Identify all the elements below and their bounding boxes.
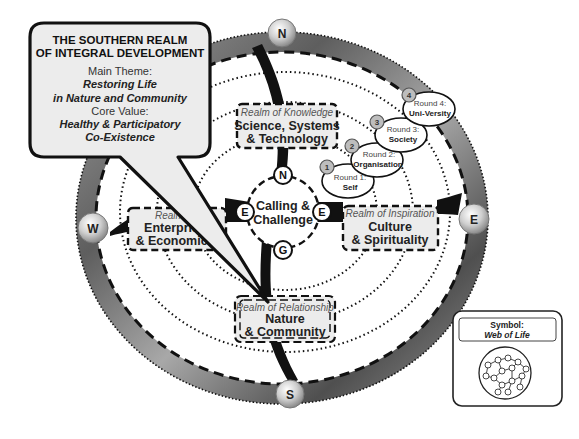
center-node-top: N xyxy=(274,166,292,184)
svg-text:& Technology: & Technology xyxy=(246,132,328,146)
svg-text:N: N xyxy=(279,169,287,181)
svg-text:Core Value:: Core Value: xyxy=(91,105,148,117)
symbol-box: Symbol: Web of Life xyxy=(453,311,562,406)
svg-text:Symbol:: Symbol: xyxy=(490,320,524,330)
svg-text:3: 3 xyxy=(375,118,380,127)
web-of-life-icon xyxy=(479,347,531,399)
svg-text:Round 3:: Round 3: xyxy=(387,125,419,134)
svg-text:& Community: & Community xyxy=(244,325,325,339)
realm-relationship-box: Realm of Relationship Nature & Community xyxy=(235,296,335,342)
svg-text:Healthy & Participatory: Healthy & Participatory xyxy=(59,118,181,130)
svg-text:Round 4:: Round 4: xyxy=(414,99,446,108)
svg-text:Web of Life: Web of Life xyxy=(484,330,530,340)
svg-text:N: N xyxy=(278,27,287,41)
center-line2: Challenge xyxy=(253,213,313,227)
svg-text:OF INTEGRAL DEVELOPMENT: OF INTEGRAL DEVELOPMENT xyxy=(36,47,204,59)
realm-inspiration-box: Realm of Inspiration Culture & Spiritual… xyxy=(343,206,438,250)
svg-text:THE SOUTHERN REALM: THE SOUTHERN REALM xyxy=(53,34,188,46)
svg-text:Main Theme:: Main Theme: xyxy=(88,65,152,77)
center-node-bottom: G xyxy=(274,241,292,259)
svg-text:E: E xyxy=(318,206,325,218)
svg-text:Uni-Versity: Uni-Versity xyxy=(409,109,451,118)
svg-text:Co-Existence: Co-Existence xyxy=(85,131,155,143)
center-calling-challenge: Calling & Challenge xyxy=(247,176,319,248)
svg-text:& Spirituality: & Spirituality xyxy=(351,233,428,247)
callout-bubble: THE SOUTHERN REALM OF INTEGRAL DEVELOPME… xyxy=(30,23,268,302)
center-node-right: E xyxy=(313,203,331,221)
svg-text:Nature: Nature xyxy=(265,312,305,326)
svg-text:in Nature and Community: in Nature and Community xyxy=(53,92,188,104)
svg-text:W: W xyxy=(87,222,99,236)
globe-east: E xyxy=(459,204,489,234)
svg-text:Society: Society xyxy=(389,135,418,144)
svg-text:Restoring Life: Restoring Life xyxy=(83,78,157,90)
svg-text:Science, Systems: Science, Systems xyxy=(234,119,340,133)
realm-knowledge-box: Realm of Knowledge Science, Systems & Te… xyxy=(234,104,340,148)
svg-text:S: S xyxy=(286,388,294,402)
svg-text:G: G xyxy=(279,244,288,256)
svg-text:Organisation: Organisation xyxy=(353,160,402,169)
svg-text:1: 1 xyxy=(325,163,330,172)
svg-text:E: E xyxy=(470,213,478,227)
svg-text:Realm of Inspiration: Realm of Inspiration xyxy=(346,208,435,219)
svg-text:Realm of Knowledge: Realm of Knowledge xyxy=(241,107,334,118)
globe-north: N xyxy=(268,19,296,47)
svg-text:E: E xyxy=(241,206,248,218)
center-line1: Calling & xyxy=(256,199,310,213)
center-node-left: E xyxy=(236,203,254,221)
southern-realm-diagram: Calling & Challenge N E E G Realm of Kno… xyxy=(0,0,579,439)
svg-text:Self: Self xyxy=(343,183,358,192)
svg-text:Culture: Culture xyxy=(368,220,412,234)
round-4: 4 Round 4: Uni-Versity xyxy=(402,88,455,126)
globe-south: S xyxy=(276,380,304,408)
globe-west: W xyxy=(78,213,108,243)
svg-text:4: 4 xyxy=(407,91,412,100)
svg-text:2: 2 xyxy=(350,142,355,151)
